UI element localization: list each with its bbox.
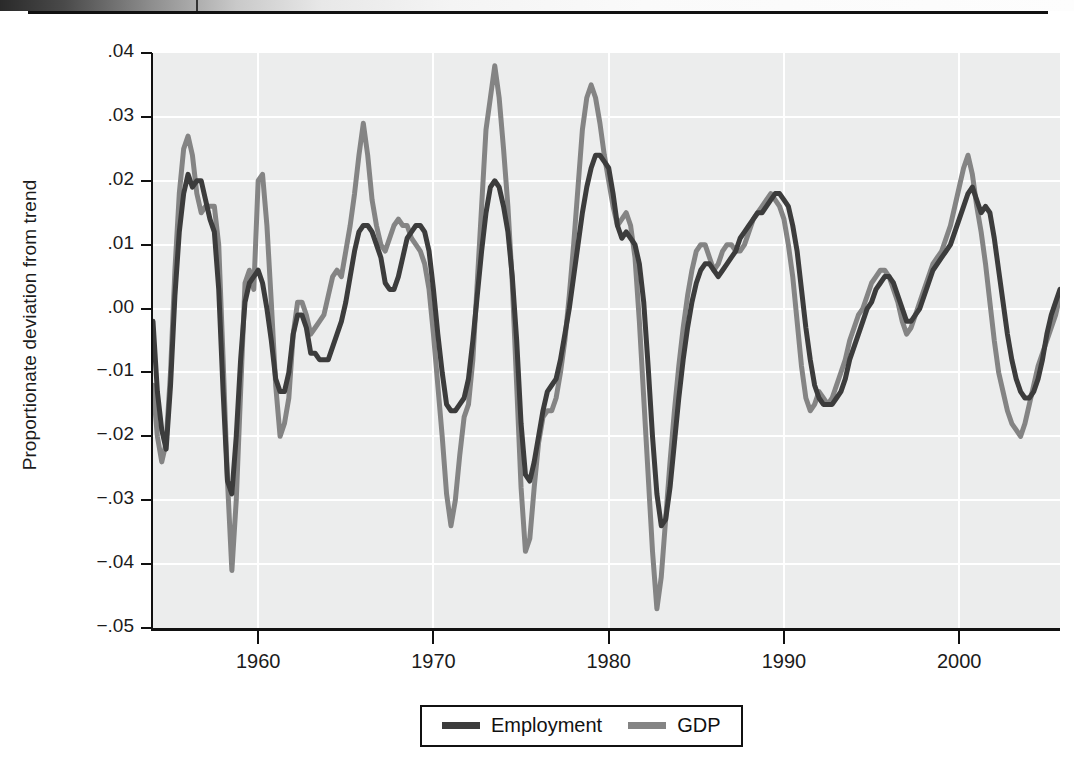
y-tick [141,308,152,310]
series-lines [153,53,1060,628]
y-tick [141,435,152,437]
x-tick-label: 1990 [739,650,829,673]
x-tick-label: 1980 [564,650,654,673]
legend-swatch-employment [442,722,480,729]
y-tick [141,627,152,629]
scan-gradient-strip [0,0,1074,11]
y-tick-label: .04 [56,40,134,62]
y-tick [141,371,152,373]
line-gdp [153,66,1060,609]
y-tick [141,116,152,118]
x-tick-label: 1960 [213,650,303,673]
x-axis-line [151,628,1060,631]
y-tick [141,499,152,501]
y-tick [141,563,152,565]
y-tick [141,52,152,54]
legend-label-gdp: GDP [677,714,720,737]
figure: Proportionate deviation from trend .04.0… [0,14,1074,770]
x-tick [432,631,434,644]
plot-area [153,53,1060,628]
x-tick [783,631,785,644]
legend: Employment GDP [420,705,743,747]
y-tick-label: −.02 [56,423,134,445]
x-tick [257,631,259,644]
y-axis-title: Proportionate deviation from trend [19,90,41,560]
legend-item-employment: Employment [442,714,602,737]
y-tick-label: −.03 [56,487,134,509]
y-tick-label: .00 [56,296,134,318]
y-tick-label: .01 [56,232,134,254]
y-tick-label: .03 [56,104,134,126]
y-tick-label: −.05 [56,615,134,637]
line-employment [153,155,1060,526]
legend-label-employment: Employment [491,714,602,737]
x-tick [608,631,610,644]
scan-ghost-text [222,0,412,9]
legend-item-gdp: GDP [628,714,720,737]
legend-swatch-gdp [628,722,666,729]
x-tick [958,631,960,644]
y-tick-label: −.04 [56,551,134,573]
x-tick-label: 1970 [388,650,478,673]
y-tick [141,244,152,246]
y-tick-label: −.01 [56,359,134,381]
y-tick [141,180,152,182]
x-tick-label: 2000 [914,650,1004,673]
y-tick-label: .02 [56,168,134,190]
